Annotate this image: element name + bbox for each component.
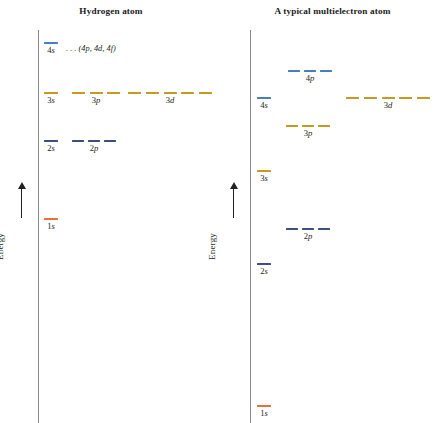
energy-axis-label-multielectron: Energy (207, 200, 217, 260)
orbital-dashes (44, 140, 58, 142)
energy-arrow-shaft (21, 188, 22, 218)
orbital-label-3s: 3s (257, 173, 271, 183)
orbital-dashes (44, 42, 58, 44)
orbital-dash (107, 92, 120, 94)
annotation-higher-orbitals: . . . (4p, 4d, 4f) (66, 44, 116, 53)
orbital-label-3p: 3p (72, 95, 120, 105)
orbital-dash (302, 228, 314, 230)
orbital-dash (199, 92, 212, 94)
orbital-label-4s: 4s (257, 100, 271, 110)
orbital-dashes (257, 97, 271, 99)
orbital-dash (128, 92, 141, 94)
orbital-dash (72, 140, 84, 142)
orbital-dash (364, 97, 377, 99)
orbital-dashes (288, 70, 332, 72)
panel-multielectron-atom: A typical multielectron atom Energy 4p 4… (222, 0, 443, 423)
orbital-dashes (257, 263, 271, 265)
orbital-dash (257, 405, 271, 407)
orbital-dash (304, 70, 316, 72)
orbital-dash (382, 97, 395, 99)
orbital-dash (44, 42, 58, 44)
orbital-dash (288, 70, 300, 72)
orbital-dash (320, 70, 332, 72)
orbital-dash (181, 92, 194, 94)
panel-title-hydrogen: Hydrogen atom (0, 6, 222, 16)
orbital-label-3s: 3s (44, 95, 58, 105)
orbital-label-1s: 1s (257, 408, 271, 418)
orbital-label-4s: 4s (44, 45, 58, 55)
orbital-dash (318, 125, 330, 127)
orbital-dash (318, 228, 330, 230)
orbital-dashes (128, 92, 212, 94)
orbital-dash (44, 140, 58, 142)
energy-axis-multielectron: Energy (226, 182, 242, 260)
orbital-dashes (257, 170, 271, 172)
energy-axis-line-hydrogen (38, 30, 39, 423)
orbital-dashes (72, 92, 120, 94)
orbital-dash (399, 97, 412, 99)
orbital-dash (257, 263, 271, 265)
orbital-dashes (346, 97, 430, 99)
orbital-dash (44, 92, 58, 94)
panel-hydrogen-atom: Hydrogen atom Energy . . . (4p, 4d, 4f) … (0, 0, 222, 423)
orbital-dash (72, 92, 85, 94)
orbital-dash (257, 170, 271, 172)
orbital-dash (88, 140, 100, 142)
panel-title-multielectron: A typical multielectron atom (222, 6, 443, 16)
orbital-dashes (72, 140, 116, 142)
orbital-dash (164, 92, 177, 94)
energy-axis-hydrogen: Energy (14, 182, 30, 260)
energy-axis-label-hydrogen: Energy (0, 200, 5, 260)
orbital-dashes (286, 228, 330, 230)
orbital-dash (286, 125, 298, 127)
orbital-dash (104, 140, 116, 142)
orbital-dash (417, 97, 430, 99)
orbital-dashes (44, 92, 58, 94)
orbital-label-2s: 2s (257, 266, 271, 276)
orbital-label-2p: 2p (72, 143, 116, 153)
orbital-label-3d: 3d (346, 100, 430, 110)
orbital-label-3p: 3p (286, 128, 330, 138)
orbital-dash (346, 97, 359, 99)
orbital-label-2p: 2p (286, 231, 330, 241)
orbital-dash (302, 125, 314, 127)
energy-axis-line-multielectron (250, 30, 251, 423)
energy-arrow-shaft (233, 188, 234, 218)
orbital-dash (257, 97, 271, 99)
orbital-label-1s: 1s (44, 221, 58, 231)
orbital-label-2s: 2s (44, 143, 58, 153)
orbital-dash (90, 92, 103, 94)
orbital-dash (286, 228, 298, 230)
orbital-dashes (44, 218, 58, 220)
orbital-dashes (257, 405, 271, 407)
orbital-dash (146, 92, 159, 94)
orbital-label-4p: 4p (288, 73, 332, 83)
orbital-dashes (286, 125, 330, 127)
orbital-dash (44, 218, 58, 220)
orbital-label-3d: 3d (128, 95, 212, 105)
